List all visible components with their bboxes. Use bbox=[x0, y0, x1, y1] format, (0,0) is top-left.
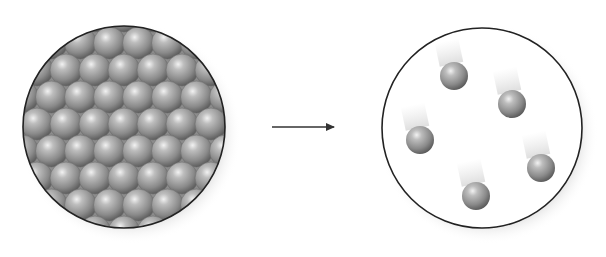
lattice-sphere bbox=[7, 27, 39, 59]
dispersed-particles-panel bbox=[378, 24, 598, 244]
lattice-sphere bbox=[50, 0, 82, 32]
motion-trail bbox=[493, 66, 521, 94]
motion-trail bbox=[522, 130, 550, 158]
lattice-sphere bbox=[0, 0, 24, 32]
lattice-sphere bbox=[0, 162, 24, 194]
lattice-sphere bbox=[195, 216, 227, 248]
motion-trail bbox=[435, 38, 463, 66]
lattice-sphere bbox=[0, 54, 24, 86]
gas-particle bbox=[462, 182, 490, 210]
gas-particle bbox=[406, 126, 434, 154]
diagram-canvas bbox=[0, 0, 606, 257]
diagram-svg bbox=[0, 0, 606, 257]
packed-particles-panel bbox=[0, 0, 242, 248]
gas-particle bbox=[498, 90, 526, 118]
motion-trail bbox=[401, 102, 429, 130]
lattice-sphere bbox=[21, 216, 53, 248]
lattice-sphere bbox=[7, 189, 39, 221]
gas-particle bbox=[440, 62, 468, 90]
lattice-sphere bbox=[0, 216, 24, 248]
lattice-sphere bbox=[21, 0, 53, 32]
lattice-sphere bbox=[210, 27, 242, 59]
motion-trail bbox=[457, 158, 485, 186]
lattice-sphere bbox=[166, 0, 198, 32]
lattice-sphere bbox=[195, 0, 227, 32]
gas-particle bbox=[527, 154, 555, 182]
